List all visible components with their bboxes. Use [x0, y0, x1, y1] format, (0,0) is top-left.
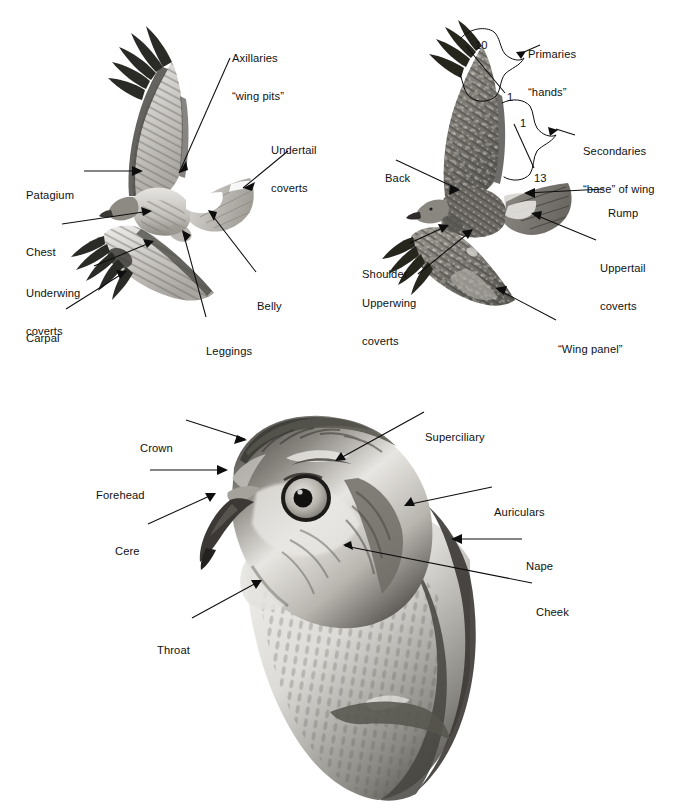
- label-nape-line1: Nape: [526, 560, 553, 573]
- artwork-layer: [0, 0, 680, 810]
- bracket-primaries: [460, 29, 524, 102]
- count-primary-outer: 10: [475, 39, 488, 52]
- label-forehead: Forehead: [96, 464, 145, 527]
- label-carpal-line1: Carpal: [26, 332, 60, 345]
- bracket-secondaries-spine: [514, 124, 534, 168]
- leader-throat: [192, 581, 260, 618]
- label-uppertail-coverts-line1: Uppertail: [600, 262, 646, 275]
- label-crown-line1: Crown: [140, 442, 173, 455]
- label-underwing-coverts-line1: Underwing: [26, 287, 80, 300]
- label-undertail-coverts: Undertail coverts: [271, 119, 317, 220]
- anatomy-plate: Axillaries “wing pits” Undertail coverts…: [0, 0, 680, 810]
- label-leggings-line1: Leggings: [206, 345, 252, 358]
- leader-cheek: [345, 546, 532, 583]
- label-leggings: Leggings: [206, 320, 252, 383]
- label-secondaries-line1: Secondaries: [583, 145, 655, 158]
- leader-wing-panel: [497, 289, 556, 320]
- leader-lines-upperside: [396, 160, 604, 320]
- label-rump-line1: Rump: [608, 207, 638, 220]
- leader-auriculars: [406, 487, 492, 505]
- label-axillaries-line1: Axillaries: [232, 52, 284, 65]
- label-undertail-coverts-line2: coverts: [271, 182, 317, 195]
- label-primaries-line1: Primaries: [528, 48, 576, 61]
- leader-secondaries: [556, 129, 575, 135]
- label-chest-line1: Chest: [26, 246, 56, 259]
- label-auriculars-line1: Auriculars: [494, 506, 545, 519]
- leader-belly: [209, 211, 256, 272]
- hawk-head-illustration: [200, 416, 476, 801]
- label-back: Back: [385, 147, 410, 210]
- leader-cere: [148, 494, 214, 524]
- label-back-line1: Back: [385, 172, 410, 185]
- label-upperwing-coverts-line1: Upperwing: [362, 297, 416, 310]
- count-primary-inner: 1: [507, 91, 513, 104]
- label-superciliary-line1: Superciliary: [425, 431, 485, 444]
- leader-underwing-coverts: [94, 242, 152, 266]
- label-undertail-coverts-line1: Undertail: [271, 144, 317, 157]
- leader-leggings: [183, 232, 206, 317]
- leader-shoulder: [410, 226, 447, 243]
- count-secondary-inner: 13: [534, 172, 547, 185]
- label-primaries-line2: “hands”: [528, 86, 576, 99]
- count-secondary-outer: 1: [520, 117, 526, 130]
- leader-superciliary: [337, 412, 424, 460]
- label-axillaries: Axillaries “wing pits”: [232, 27, 284, 128]
- label-wing-panel: “Wing panel”: [558, 318, 623, 381]
- label-axillaries-line2: “wing pits”: [232, 90, 284, 103]
- label-cere: Cere: [115, 520, 140, 583]
- label-wing-panel-line1: “Wing panel”: [558, 343, 623, 356]
- label-uppertail-coverts-line2: coverts: [600, 300, 646, 313]
- label-cheek: Cheek: [536, 581, 569, 644]
- leader-upperwing-coverts: [418, 231, 471, 274]
- label-forehead-line1: Forehead: [96, 489, 145, 502]
- label-carpal: Carpal: [26, 307, 60, 370]
- label-belly-line1: Belly: [257, 300, 282, 313]
- label-patagium-line1: Patagium: [26, 189, 74, 202]
- label-rump: Rump: [608, 182, 638, 245]
- label-patagium: Patagium: [26, 164, 74, 227]
- label-upperwing-coverts: Upperwing coverts: [362, 272, 416, 373]
- label-superciliary: Superciliary: [425, 406, 485, 469]
- label-throat-line1: Throat: [157, 644, 190, 657]
- label-upperwing-coverts-line2: coverts: [362, 335, 416, 348]
- label-cere-line1: Cere: [115, 545, 140, 558]
- label-primaries: Primaries “hands”: [528, 23, 576, 124]
- label-crown: Crown: [140, 417, 173, 480]
- label-throat: Throat: [157, 619, 190, 682]
- leader-axillaries: [179, 58, 230, 173]
- leader-crown: [186, 420, 245, 439]
- label-belly: Belly: [257, 275, 282, 338]
- label-cheek-line1: Cheek: [536, 606, 569, 619]
- bracket-primaries-spine: [466, 46, 505, 93]
- hawk-underside-illustration: [71, 26, 254, 301]
- leader-chest: [62, 211, 150, 224]
